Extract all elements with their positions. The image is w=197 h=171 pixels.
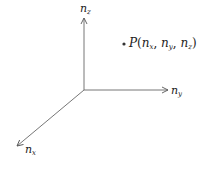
z-axis-label: nz [80, 3, 91, 16]
x-axis-label: nx [25, 144, 36, 157]
y-axis-label: ny [171, 85, 182, 98]
x-axis [17, 90, 84, 146]
point-label: P(nx, ny, nz) [129, 37, 197, 51]
point-marker [122, 42, 125, 45]
